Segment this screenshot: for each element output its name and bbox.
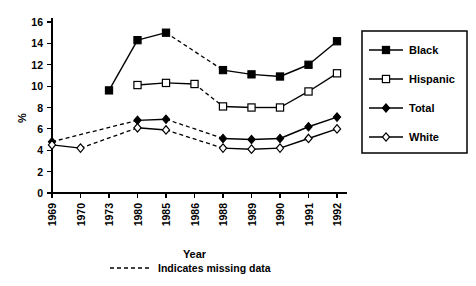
- data-point: [248, 104, 255, 111]
- y-tick-label: 14: [31, 37, 43, 49]
- y-tick-label: 2: [37, 166, 43, 178]
- y-tick-label: 4: [37, 144, 43, 156]
- series-segment: [280, 138, 309, 148]
- data-point: [276, 134, 283, 142]
- data-point: [276, 73, 283, 80]
- y-tick-label: 6: [37, 123, 43, 135]
- y-tick-label: 0: [37, 187, 43, 199]
- data-point: [333, 125, 340, 133]
- x-tick-label: 1970: [75, 203, 87, 227]
- y-tick-label: 10: [31, 80, 43, 92]
- series-segment: [223, 138, 252, 139]
- series-segment: [223, 148, 252, 149]
- x-tick-label: 1986: [189, 203, 201, 227]
- series-segment: [52, 145, 81, 148]
- data-point: [305, 134, 312, 142]
- series-segment: [309, 129, 338, 139]
- legend-item-hispanic[interactable]: Hispanic: [369, 73, 455, 85]
- data-point: [248, 71, 255, 78]
- x-tick-label: 1989: [246, 203, 258, 227]
- data-point: [305, 123, 312, 131]
- series-segment: [138, 33, 167, 40]
- series-segment: [280, 65, 309, 77]
- data-point: [134, 124, 141, 132]
- chart-figure: 0246810121416196919701973198019851986198…: [0, 0, 476, 286]
- y-tick-label: 12: [31, 59, 43, 71]
- series-segment: [166, 130, 223, 148]
- data-point: [162, 115, 169, 123]
- series-segment: [280, 127, 309, 139]
- series-white: [48, 124, 340, 154]
- legend-label: White: [409, 131, 439, 143]
- x-tick-label: 1980: [132, 203, 144, 227]
- data-point: [248, 145, 255, 153]
- series-hispanic: [134, 70, 341, 111]
- series-total: [48, 113, 340, 146]
- data-point: [162, 79, 169, 86]
- data-point: [305, 88, 312, 95]
- data-point: [276, 104, 283, 111]
- series-segment: [309, 41, 338, 65]
- x-tick-label: 1988: [217, 203, 229, 227]
- series-segment: [309, 73, 338, 91]
- x-tick-label: 1985: [160, 203, 172, 227]
- data-point: [162, 29, 169, 36]
- x-axis-title: Year: [183, 248, 207, 260]
- series-segment: [138, 128, 167, 130]
- data-point: [248, 135, 255, 143]
- x-tick-label: 1969: [46, 203, 58, 227]
- legend-label: Hispanic: [409, 73, 455, 85]
- y-tick-label: 16: [31, 16, 43, 28]
- missing-data-note: Indicates missing data: [158, 262, 271, 274]
- data-point: [105, 87, 112, 94]
- series-segment: [166, 33, 223, 70]
- series-segment: [109, 40, 138, 90]
- data-point: [134, 37, 141, 44]
- data-point: [134, 81, 141, 88]
- x-tick-label: 1992: [331, 203, 343, 227]
- data-point: [276, 144, 283, 152]
- series-segment: [166, 119, 223, 138]
- data-point: [191, 80, 198, 87]
- data-point: [219, 103, 226, 110]
- data-point: [162, 126, 169, 134]
- series-segment: [280, 91, 309, 107]
- axis-lines: [52, 18, 347, 193]
- data-point: [219, 66, 226, 73]
- y-axis-title: %: [16, 113, 28, 123]
- data-point: [219, 144, 226, 152]
- plot-area: 0246810121416196919701973198019851986198…: [16, 16, 467, 274]
- series-segment: [166, 83, 195, 84]
- x-tick-label: 1991: [303, 203, 315, 227]
- legend-label: Black: [409, 44, 439, 56]
- series-segment: [223, 106, 252, 107]
- y-tick-label: 8: [37, 102, 43, 114]
- legend-marker: [382, 75, 389, 82]
- series-segment: [252, 74, 281, 76]
- data-point: [333, 38, 340, 45]
- line-chart: 0246810121416196919701973198019851986198…: [0, 0, 476, 286]
- series-segment: [81, 128, 138, 148]
- series-segment: [195, 84, 224, 106]
- series-segment: [138, 83, 167, 85]
- data-point: [77, 144, 84, 152]
- series-segment: [309, 117, 338, 127]
- x-tick-label: 1990: [274, 203, 286, 227]
- legend-label: Total: [409, 102, 434, 114]
- series-segment: [252, 148, 281, 149]
- legend-marker: [382, 46, 389, 53]
- x-tick-label: 1973: [103, 203, 115, 227]
- data-point: [305, 61, 312, 68]
- series-segment: [252, 138, 281, 139]
- data-point: [333, 70, 340, 77]
- data-point: [333, 113, 340, 121]
- data-point: [219, 134, 226, 142]
- series-segment: [52, 120, 138, 141]
- series-segment: [138, 119, 167, 120]
- series-segment: [223, 70, 252, 74]
